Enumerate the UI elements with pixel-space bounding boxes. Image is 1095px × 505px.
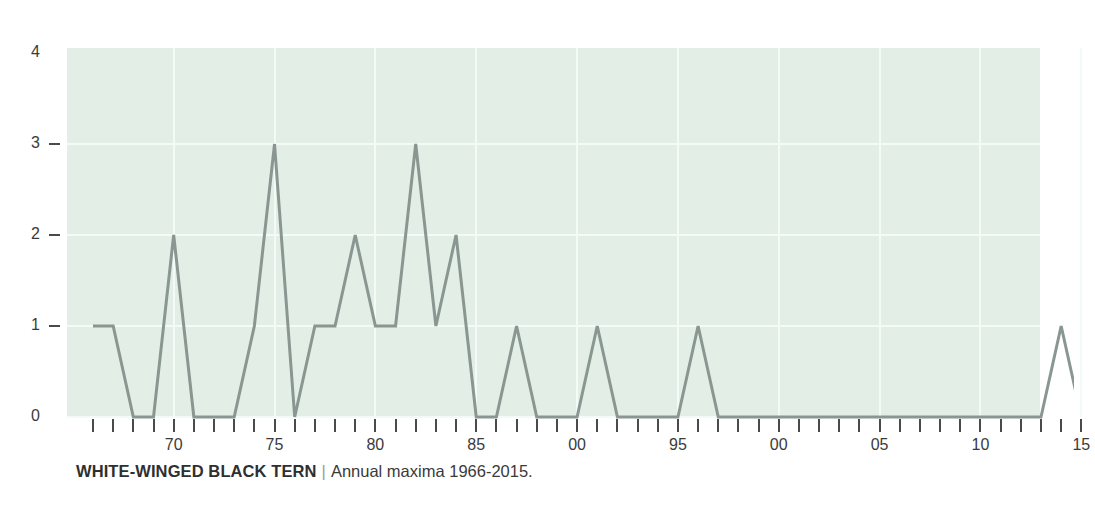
x-axis-tick-mark xyxy=(697,419,699,432)
x-axis-tick-label: 00 xyxy=(759,437,799,453)
y-axis-tick-label: 4 xyxy=(14,44,40,60)
gridline-vertical xyxy=(677,48,679,417)
gridline-vertical xyxy=(475,48,477,417)
x-axis-tick-mark xyxy=(132,419,134,432)
x-axis-tick-mark xyxy=(677,419,679,432)
x-axis-tick-mark xyxy=(556,419,558,432)
gridline-vertical xyxy=(979,48,981,417)
gridline-horizontal xyxy=(67,325,1040,327)
x-axis-tick-mark xyxy=(1000,419,1002,432)
plot-area xyxy=(67,48,1040,417)
x-axis-tick-mark xyxy=(979,419,981,432)
x-axis-tick-mark xyxy=(616,419,618,432)
x-axis-tick-mark xyxy=(717,419,719,432)
gridline-vertical xyxy=(576,48,578,417)
x-axis-tick-mark xyxy=(879,419,881,432)
x-axis-tick-mark xyxy=(253,419,255,432)
x-axis-tick-mark xyxy=(818,419,820,432)
x-axis-tick-mark xyxy=(455,419,457,432)
x-axis-tick-mark xyxy=(1080,419,1082,432)
chart-caption: WHITE-WINGED BLACK TERN|Annual maxima 19… xyxy=(76,462,533,482)
x-axis-tick-mark xyxy=(153,419,155,432)
x-axis-tick-label: 80 xyxy=(355,437,395,453)
gridline-vertical xyxy=(374,48,376,417)
x-axis-tick-label: 05 xyxy=(860,437,900,453)
x-axis-tick-mark xyxy=(233,419,235,432)
x-axis-tick-mark xyxy=(516,419,518,432)
y-axis-tick-mark xyxy=(49,234,60,236)
x-axis-tick-mark xyxy=(334,419,336,432)
x-axis-tick-mark xyxy=(576,419,578,432)
caption-species: WHITE-WINGED BLACK TERN xyxy=(76,462,317,480)
x-axis-tick-mark xyxy=(536,419,538,432)
x-axis-tick-mark xyxy=(112,419,114,432)
x-axis-tick-mark xyxy=(758,419,760,432)
y-axis-tick-label: 3 xyxy=(14,135,40,151)
caption-subtitle: Annual maxima 1966-2015. xyxy=(331,462,533,480)
x-axis-tick-mark xyxy=(838,419,840,432)
gridline-horizontal xyxy=(67,143,1040,145)
x-axis-tick-label: 95 xyxy=(658,437,698,453)
x-axis-tick-mark xyxy=(1020,419,1022,432)
x-axis-tick-mark xyxy=(354,419,356,432)
x-axis-tick-mark xyxy=(737,419,739,432)
x-axis-tick-mark xyxy=(919,419,921,432)
x-axis-tick-mark xyxy=(657,419,659,432)
x-axis-tick-mark xyxy=(435,419,437,432)
x-axis-tick-label: 70 xyxy=(154,437,194,453)
x-axis-tick-mark xyxy=(596,419,598,432)
x-axis-tick-mark xyxy=(778,419,780,432)
x-axis-tick-mark xyxy=(193,419,195,432)
x-axis-tick-label: 00 xyxy=(557,437,597,453)
x-axis-tick-mark xyxy=(899,419,901,432)
x-axis-tick-label: 10 xyxy=(960,437,1000,453)
y-axis-tick-label: 0 xyxy=(14,408,40,424)
x-axis-tick-mark xyxy=(395,419,397,432)
x-axis-tick-mark xyxy=(939,419,941,432)
x-axis: 70758085009500051015 xyxy=(0,417,1074,418)
x-axis-tick-mark xyxy=(173,419,175,432)
caption-separator: | xyxy=(317,462,331,480)
x-axis-tick-mark xyxy=(637,419,639,432)
x-axis-tick-mark xyxy=(274,419,276,432)
gridline-horizontal xyxy=(67,234,1040,236)
y-axis-tick-mark xyxy=(49,325,60,327)
x-axis-tick-mark xyxy=(798,419,800,432)
x-axis-tick-mark xyxy=(1040,419,1042,432)
x-axis-tick-mark xyxy=(475,419,477,432)
x-axis-tick-label: 75 xyxy=(255,437,295,453)
x-axis-tick-mark xyxy=(374,419,376,432)
x-axis-tick-mark xyxy=(213,419,215,432)
gridline-vertical xyxy=(173,48,175,417)
x-axis-tick-mark xyxy=(415,419,417,432)
gridline-vertical xyxy=(879,48,881,417)
x-axis-tick-mark xyxy=(858,419,860,432)
x-axis-tick-label: 15 xyxy=(1061,437,1095,453)
x-axis-tick-mark xyxy=(1060,419,1062,432)
y-axis-tick-label: 1 xyxy=(14,317,40,333)
x-axis-tick-mark xyxy=(959,419,961,432)
x-axis-tick-mark xyxy=(294,419,296,432)
gridline-vertical xyxy=(274,48,276,417)
x-axis-tick-mark xyxy=(92,419,94,432)
x-axis-tick-mark xyxy=(314,419,316,432)
gridline-vertical xyxy=(778,48,780,417)
x-axis-tick-mark xyxy=(495,419,497,432)
x-axis-tick-label: 85 xyxy=(456,437,496,453)
y-axis-tick-label: 2 xyxy=(14,226,40,242)
y-axis-tick-mark xyxy=(49,143,60,145)
gridline-vertical xyxy=(1080,48,1082,417)
